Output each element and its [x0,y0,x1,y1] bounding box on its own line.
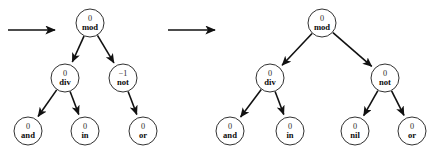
node-label-or: or [408,130,416,140]
node-value-div: 0 [63,69,67,78]
tree-nodes-group: 0mod0div−1not0and0in0or0mod0div0not0and0… [14,9,426,145]
tree-edge-R-root-to-R-div [282,34,312,66]
node-value-in: 0 [83,122,87,131]
node-value-and: 0 [26,122,30,131]
tree-node-mod[interactable]: 0mod [308,9,336,37]
node-label-and: and [223,130,237,140]
tree-edge-R-div-to-R-and [241,90,262,117]
node-value-div: 0 [268,69,272,78]
tree-node-and[interactable]: 0and [216,117,244,145]
node-label-div: div [59,77,71,87]
tree-edge-R-not-to-R-nil [364,91,378,116]
tree-node-in[interactable]: 0in [276,117,304,145]
tree-edge-L-root-to-L-not [97,35,113,62]
node-label-nil: nil [350,130,360,140]
tree-node-not[interactable]: 0not [371,64,399,92]
node-label-not: not [379,77,391,87]
node-label-in: in [286,130,293,140]
node-value-not: −1 [119,69,128,78]
tree-transition-figure: 0mod0div−1not0and0in0or0mod0div0not0and0… [0,0,439,160]
tree-edge-L-div-to-L-and [38,90,57,117]
node-value-and: 0 [228,122,232,131]
node-label-or: or [139,130,147,140]
tree-edges-group [38,33,404,117]
tree-node-div[interactable]: 0div [51,64,79,92]
node-value-mod: 0 [88,14,92,23]
tree-node-div[interactable]: 0div [256,64,284,92]
node-value-not: 0 [383,69,387,78]
tree-edge-L-root-to-L-div [72,36,84,62]
tree-edge-R-root-to-R-not [333,33,372,67]
node-value-in: 0 [288,122,292,131]
node-label-mod: mod [82,22,98,32]
tree-edge-L-not-to-L-or [128,92,137,115]
node-value-or: 0 [410,122,414,131]
tree-node-nil[interactable]: 0nil [341,117,369,145]
tree-node-not[interactable]: −1not [109,64,137,92]
tree-edge-R-not-to-R-or [392,91,404,115]
node-label-div: div [264,77,276,87]
node-label-in: in [81,130,88,140]
node-value-or: 0 [141,122,145,131]
node-label-and: and [21,130,35,140]
tree-node-and[interactable]: 0and [14,117,42,145]
tree-node-or[interactable]: 0or [398,117,426,145]
tree-node-mod[interactable]: 0mod [76,9,104,37]
node-value-mod: 0 [320,14,324,23]
tree-edge-R-div-to-R-in [275,92,284,115]
node-value-nil: 0 [353,122,357,131]
node-label-not: not [117,77,129,87]
tree-edge-L-div-to-L-in [70,92,79,115]
figure-canvas: 0mod0div−1not0and0in0or0mod0div0not0and0… [0,0,439,160]
tree-node-or[interactable]: 0or [129,117,157,145]
node-label-mod: mod [314,22,330,32]
tree-node-in[interactable]: 0in [71,117,99,145]
